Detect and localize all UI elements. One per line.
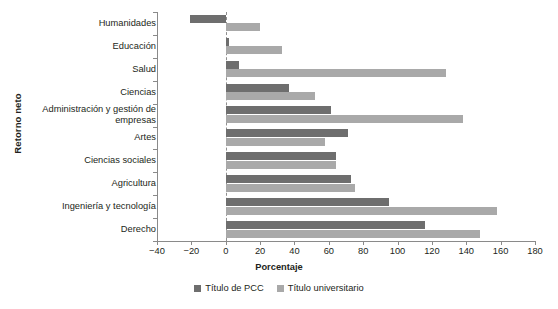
category-label: Humanidades bbox=[28, 18, 156, 29]
legend-swatch bbox=[277, 285, 284, 292]
legend-label: Título de PCC bbox=[205, 283, 263, 293]
category-label-column: HumanidadesEducaciónSaludCienciasAdminis… bbox=[28, 12, 156, 241]
bar-pcc bbox=[226, 152, 336, 160]
x-axis-tick bbox=[466, 241, 467, 245]
bar-pcc bbox=[226, 106, 331, 114]
x-axis-tick bbox=[191, 241, 192, 245]
x-axis-tick bbox=[363, 241, 364, 245]
bar-pcc bbox=[226, 38, 229, 46]
x-axis-title: Porcentaje bbox=[0, 262, 558, 272]
x-axis-tick bbox=[294, 241, 295, 245]
legend-label: Título universitario bbox=[288, 283, 364, 293]
y-axis-tick bbox=[153, 127, 157, 128]
bar-universitario bbox=[226, 138, 326, 146]
x-axis-tick bbox=[226, 241, 227, 245]
category-label: Administración y gestión de empresas bbox=[28, 104, 156, 126]
y-axis-title: Retorno neto bbox=[12, 74, 23, 174]
y-axis-tick bbox=[153, 172, 157, 173]
x-axis-tick bbox=[157, 241, 158, 245]
bar-universitario bbox=[226, 184, 355, 192]
plot-area bbox=[157, 12, 535, 241]
x-axis-ticks: −40−20020406080100120140160180 bbox=[157, 241, 535, 263]
category-label: Ingeniería y tecnología bbox=[28, 201, 156, 212]
y-axis-line bbox=[157, 12, 158, 241]
x-axis-tick bbox=[398, 241, 399, 245]
bar-pcc bbox=[226, 221, 425, 229]
bar-pcc bbox=[226, 129, 348, 137]
category-label: Ciencias bbox=[28, 87, 156, 98]
chart-legend: Título de PCCTítulo universitario bbox=[0, 283, 558, 293]
y-axis-tick bbox=[153, 218, 157, 219]
x-axis-tick-label: 180 bbox=[515, 246, 555, 256]
bar-pcc bbox=[226, 198, 389, 206]
y-axis-tick bbox=[153, 149, 157, 150]
bar-universitario bbox=[226, 92, 315, 100]
category-label: Artes bbox=[28, 132, 156, 143]
bar-universitario bbox=[226, 161, 336, 169]
bar-universitario bbox=[226, 207, 497, 215]
x-axis-tick bbox=[501, 241, 502, 245]
legend-item: Título universitario bbox=[277, 283, 364, 293]
y-axis-tick bbox=[153, 58, 157, 59]
bar-universitario bbox=[226, 69, 446, 77]
legend-swatch bbox=[194, 285, 201, 292]
category-label: Derecho bbox=[28, 224, 156, 235]
y-axis-tick bbox=[153, 81, 157, 82]
bar-universitario bbox=[226, 115, 463, 123]
bar-universitario bbox=[226, 230, 480, 238]
y-axis-tick bbox=[153, 12, 157, 13]
category-label: Agricultura bbox=[28, 178, 156, 189]
bar-pcc bbox=[190, 15, 226, 23]
bar-pcc bbox=[226, 84, 290, 92]
x-axis-tick bbox=[329, 241, 330, 245]
legend-item: Título de PCC bbox=[194, 283, 263, 293]
y-axis-tick bbox=[153, 35, 157, 36]
y-axis-tick bbox=[153, 104, 157, 105]
bar-universitario bbox=[226, 46, 283, 54]
net-return-bar-chart: Retorno neto HumanidadesEducaciónSaludCi… bbox=[0, 0, 558, 309]
x-axis-tick bbox=[260, 241, 261, 245]
x-axis-tick bbox=[535, 241, 536, 245]
y-axis-tick bbox=[153, 195, 157, 196]
category-label: Salud bbox=[28, 64, 156, 75]
bar-universitario bbox=[226, 23, 260, 31]
category-label: Educación bbox=[28, 41, 156, 52]
bar-pcc bbox=[226, 175, 351, 183]
bar-pcc bbox=[226, 61, 240, 69]
x-axis-tick bbox=[432, 241, 433, 245]
category-label: Ciencias sociales bbox=[28, 155, 156, 166]
